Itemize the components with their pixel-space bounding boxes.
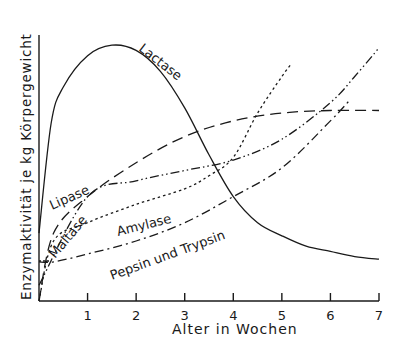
x-tick-label: 7	[375, 308, 383, 323]
x-ticks	[88, 293, 379, 301]
label-lipase: Lipase	[47, 182, 91, 213]
label-lactase: Lactase	[136, 41, 185, 84]
x-tick-label: 6	[326, 308, 334, 323]
label-maltase: Maltase	[46, 212, 90, 260]
x-tick-label: 1	[83, 308, 91, 323]
curves	[39, 45, 379, 301]
curve-lipase	[39, 48, 379, 285]
enzyme-activity-chart: 1234567 Lactase Lipase Maltase Amylase P…	[0, 0, 399, 349]
label-amylase: Amylase	[115, 211, 173, 239]
x-axis-label: Alter in Wochen	[172, 321, 298, 337]
curve-lactase	[39, 45, 379, 259]
curve-maltase	[39, 110, 379, 301]
y-axis-label: Enzymaktivität je kg Körpergewicht	[18, 33, 34, 300]
axes	[39, 35, 379, 301]
curve-amylase	[39, 64, 292, 302]
x-tick-label: 2	[132, 308, 140, 323]
